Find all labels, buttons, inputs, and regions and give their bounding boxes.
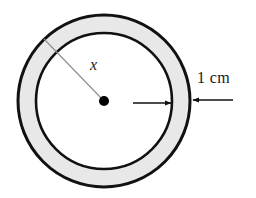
band-width-label: 1 cm (197, 70, 230, 86)
shaded-band-region (0, 0, 256, 198)
annulus-diagram-canvas (0, 0, 256, 198)
center-point-dot (99, 96, 109, 106)
annulus-figure: x 1 cm (0, 0, 256, 198)
radius-label: x (90, 57, 97, 73)
